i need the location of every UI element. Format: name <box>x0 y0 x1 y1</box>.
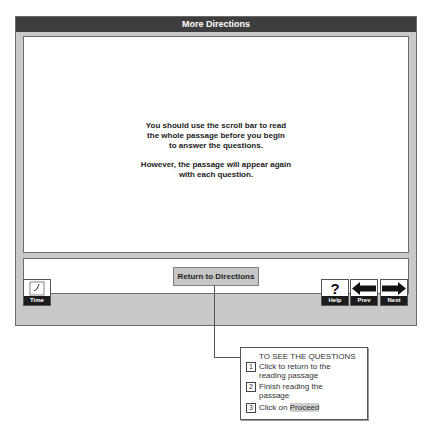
callout-step-1: 1Click to return to the reading passage <box>246 362 359 380</box>
prev-label: Prev <box>351 296 377 305</box>
instruction-callout: TO SEE THE QUESTIONS 1Click to return to… <box>240 347 368 420</box>
arrow-left-icon <box>351 280 377 297</box>
prev-button[interactable]: Prev <box>350 279 378 306</box>
directions-text: You should use the scroll bar to read th… <box>24 121 408 189</box>
callout-step-3: 3Click on Proceed <box>246 403 359 413</box>
time-button[interactable]: Time <box>23 279 51 306</box>
step-number: 1 <box>246 362 256 372</box>
callout-step-2: 2Finish reading the passage <box>246 382 359 400</box>
directions-paragraph-1: You should use the scroll bar to read th… <box>24 121 408 151</box>
step-text: Click on Proceed <box>259 403 359 412</box>
passage-panel: You should use the scroll bar to read th… <box>23 36 409 253</box>
clock-icon <box>24 280 50 297</box>
proceed-highlight: Proceed <box>290 403 320 412</box>
question-mark-icon: ? <box>322 280 348 297</box>
callout-heading: TO SEE THE QUESTIONS <box>259 352 356 361</box>
step-number: 2 <box>246 382 256 392</box>
step-text-prefix: Click on <box>259 403 290 412</box>
help-label: Help <box>322 296 348 305</box>
callout-connector-horizontal <box>214 357 241 358</box>
next-button[interactable]: Next <box>380 279 408 306</box>
step-text: Click to return to the reading passage <box>259 362 359 380</box>
time-label: Time <box>24 296 50 305</box>
directions-paragraph-2: However, the passage will appear again w… <box>24 160 408 180</box>
callout-connector-vertical <box>214 285 215 358</box>
return-to-directions-button[interactable]: Return to Directions <box>173 267 259 286</box>
arrow-right-icon <box>381 280 407 297</box>
step-number: 3 <box>246 403 256 413</box>
step-text: Finish reading the passage <box>259 382 359 400</box>
window-title: More Directions <box>16 17 416 32</box>
next-label: Next <box>381 296 407 305</box>
help-button[interactable]: ? Help <box>321 279 349 306</box>
